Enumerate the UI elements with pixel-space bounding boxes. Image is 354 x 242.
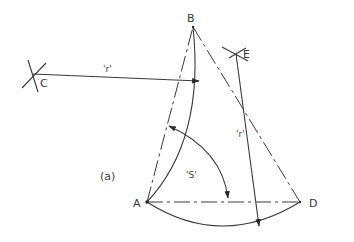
radius-label-r-2: 'r' xyxy=(236,129,245,139)
radius-line-e xyxy=(236,54,259,226)
label-b: B xyxy=(187,12,195,25)
angle-arc-s xyxy=(169,126,228,198)
subfigure-label: (a) xyxy=(100,170,115,183)
point-a-dot xyxy=(145,200,149,204)
label-c: C xyxy=(40,77,48,90)
label-d: D xyxy=(309,197,317,210)
point-d-dot xyxy=(299,201,301,203)
radius-line-c xyxy=(33,74,199,81)
arc-ad xyxy=(147,202,300,226)
arc-label-s: 'S' xyxy=(186,170,197,180)
radius-label-r-1: 'r' xyxy=(103,64,112,74)
label-a: A xyxy=(133,197,141,210)
label-e: E xyxy=(243,48,250,61)
geometry-diagram: B A D C E (a) 'S' 'r' 'r' xyxy=(0,0,354,242)
point-b-dot xyxy=(192,26,194,28)
